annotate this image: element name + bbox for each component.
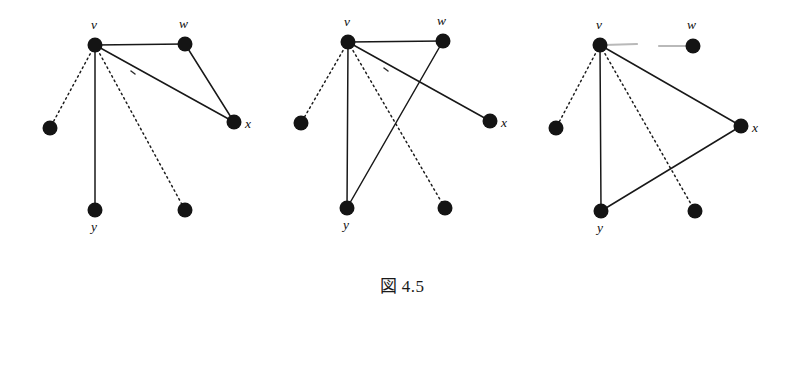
edge-w-x-solid [185, 44, 234, 122]
edge-v-x-solid [95, 45, 234, 122]
graph-panel-2: vwxy [294, 13, 508, 232]
vertex-label-y: y [89, 219, 97, 234]
edge-v-y-solid [347, 42, 348, 208]
graph-panel-1: vwxy [43, 16, 252, 234]
vertex-node-unlabeled [688, 204, 703, 219]
vertex-node-y [594, 204, 609, 219]
edge-v-a-dotted [556, 45, 600, 128]
figure-caption: 図 4.5 [0, 272, 804, 297]
vertex-label-y: y [595, 220, 603, 235]
vertex-label-w: w [179, 16, 188, 31]
vertex-node-x [483, 114, 498, 129]
vertex-node-x [734, 119, 749, 134]
vertex-node-y [340, 201, 355, 216]
vertex-label-w: w [437, 13, 446, 28]
vertex-label-w: w [687, 17, 696, 32]
edge-x-y-solid [601, 126, 741, 211]
vertex-label-v: v [344, 14, 350, 29]
edge-tick-mark [384, 68, 388, 71]
vertex-node-v [593, 38, 608, 53]
vertex-node-unlabeled [438, 201, 453, 216]
edge-v-w-solid [348, 41, 443, 42]
vertex-label-y: y [341, 217, 349, 232]
vertex-label-x: x [244, 116, 251, 131]
vertex-node-w [686, 39, 701, 54]
vertex-label-v: v [596, 17, 602, 32]
edge-tick-mark [131, 71, 135, 74]
vertex-label-x: x [751, 120, 758, 135]
vertex-node-unlabeled [549, 121, 564, 136]
graph-panel-3: vwxy [549, 17, 759, 235]
edge-v-a-dotted [301, 42, 348, 123]
vertex-node-y [88, 203, 103, 218]
vertex-node-w [178, 37, 193, 52]
erased-edge-stub [604, 44, 637, 45]
edge-v-b-dotted [600, 45, 695, 211]
vertex-node-w [436, 34, 451, 49]
edge-v-w-solid [95, 44, 185, 45]
vertex-node-unlabeled [294, 116, 309, 131]
figure-root: vwxyvwxyvwxy 図 4.5 [0, 0, 804, 389]
vertex-node-v [88, 38, 103, 53]
vertex-node-unlabeled [178, 203, 193, 218]
edge-v-y-solid [600, 45, 601, 211]
vertex-node-v [341, 35, 356, 50]
edge-w-y-solid [347, 41, 443, 208]
edge-v-x-solid [600, 45, 741, 126]
edge-v-a-dotted [50, 45, 95, 128]
edge-v-b-dotted [348, 42, 445, 208]
vertex-node-x [227, 115, 242, 130]
vertex-label-x: x [500, 115, 507, 130]
vertex-label-v: v [91, 17, 97, 32]
vertex-node-unlabeled [43, 121, 58, 136]
graph-diagram-canvas: vwxyvwxyvwxy [0, 0, 804, 389]
